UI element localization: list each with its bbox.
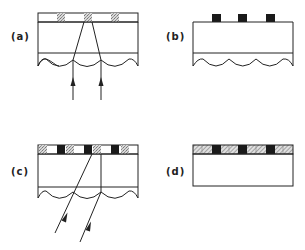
stipple-filter-element [57, 13, 65, 22]
black-filter-element [84, 145, 92, 154]
black-mask-element [266, 14, 275, 22]
stipple-filter-element [93, 145, 101, 154]
panel-c [38, 145, 138, 242]
panel-a [38, 13, 138, 100]
black-filter-element [111, 145, 119, 154]
black-filter-element [57, 145, 65, 154]
stipple-filter-element [39, 145, 47, 154]
black-matrix-element [266, 145, 275, 154]
black-mask-element [212, 14, 221, 22]
stipple-filter-element [84, 13, 92, 22]
stipple-filter-element [111, 13, 119, 22]
panel-d [193, 145, 293, 186]
stipple-filter-element [66, 145, 74, 154]
panel-b [193, 14, 293, 66]
black-matrix-element [212, 145, 221, 154]
black-matrix-element [238, 145, 247, 154]
stipple-filter-element [121, 145, 129, 154]
black-mask-element [238, 14, 247, 22]
diagram-canvas [0, 0, 305, 250]
